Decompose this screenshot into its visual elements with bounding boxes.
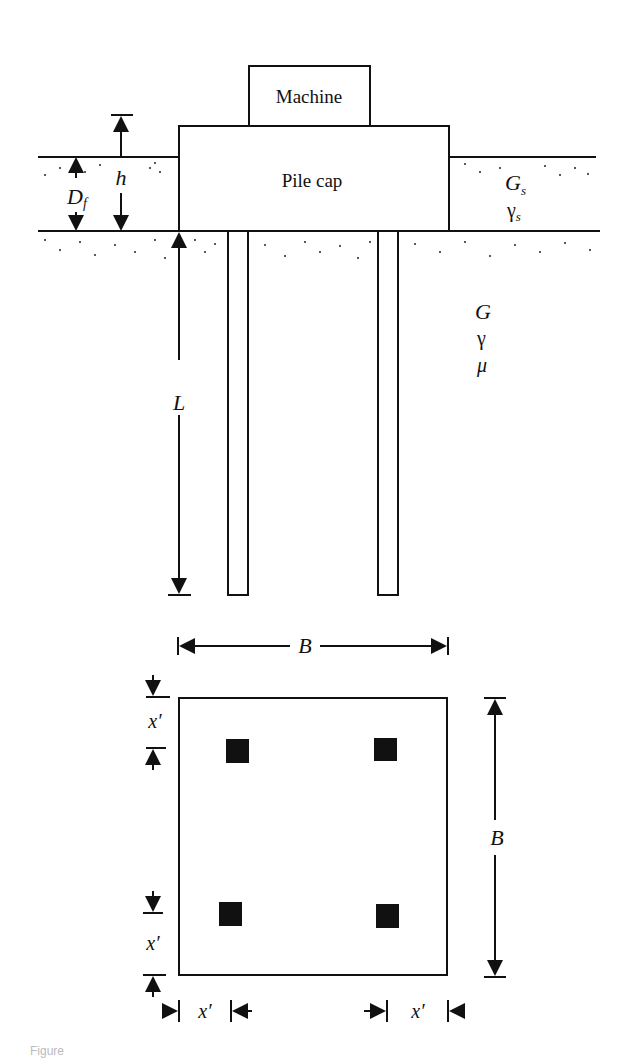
h-label: h: [116, 165, 127, 190]
machine-label: Machine: [276, 86, 342, 107]
plan-height-label: B: [490, 825, 503, 850]
plan-pile: [226, 739, 249, 763]
figure-caption: Figure: [30, 1044, 64, 1058]
plan-width-label: B: [298, 633, 311, 658]
plan-pile: [376, 904, 399, 928]
plan-pile: [219, 902, 242, 926]
plan-dim-width: [178, 637, 448, 655]
lower-gamma-label: γ: [476, 327, 486, 350]
upper-gamma-label: γs: [506, 199, 521, 224]
x-prime-label-left: x′: [197, 1000, 212, 1022]
plan-pile: [374, 738, 397, 761]
x-prime-label-bottom: x′: [145, 932, 160, 954]
pile-cap-label: Pile cap: [282, 170, 343, 191]
plan-pile-cap: [179, 698, 447, 975]
lower-g-label: G: [475, 299, 491, 324]
x-prime-label-right: x′: [410, 1000, 425, 1022]
lower-mu-label: μ: [476, 354, 487, 377]
pile-right: [378, 231, 398, 595]
df-label: Df: [66, 184, 89, 211]
l-label: L: [172, 390, 185, 415]
pile-left: [228, 231, 248, 595]
x-prime-label-top: x′: [147, 710, 162, 732]
upper-g-label: Gs: [505, 170, 526, 198]
